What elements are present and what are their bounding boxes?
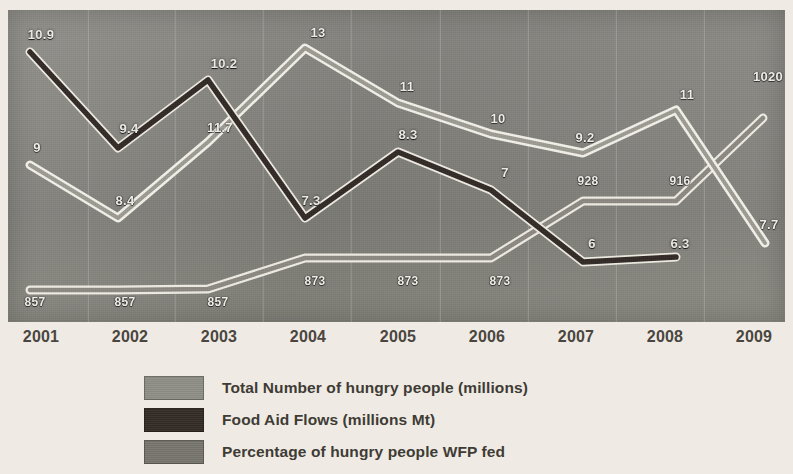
x-axis-tick: 2006 <box>469 328 505 346</box>
legend-label: Total Number of hungry people (millions) <box>222 379 528 397</box>
data-label: 8.4 <box>116 193 135 208</box>
data-label: 873 <box>490 274 511 288</box>
x-axis-tick: 2004 <box>290 328 326 346</box>
data-label: 11.7 <box>207 120 233 135</box>
x-axis-tick: 2009 <box>736 328 772 346</box>
data-label: 857 <box>25 295 46 309</box>
data-label: 9 <box>33 140 41 155</box>
legend-swatch <box>144 440 204 464</box>
data-label: 7.7 <box>760 217 779 232</box>
series-lines <box>8 10 785 322</box>
data-label: 10 <box>490 111 505 126</box>
data-label: 857 <box>115 295 136 309</box>
data-label: 10.2 <box>211 56 238 71</box>
data-label: 11 <box>680 87 694 102</box>
data-label: 6.3 <box>671 236 690 251</box>
data-label: 10.9 <box>28 27 55 42</box>
legend-label: Food Aid Flows (millions Mt) <box>222 411 435 429</box>
legend-item-food-aid: Food Aid Flows (millions Mt) <box>144 404 684 436</box>
chart-root: 10.9 9.4 10.2 7.3 8.3 7 6 6.3 9 8.4 11.7… <box>0 0 793 474</box>
legend-item-total-hungry: Total Number of hungry people (millions) <box>144 372 684 404</box>
x-axis-tick: 2008 <box>647 328 683 346</box>
legend-label: Percentage of hungry people WFP fed <box>222 443 505 461</box>
series-total-hungry <box>30 48 765 243</box>
x-axis-tick: 2005 <box>380 328 416 346</box>
data-label: 928 <box>578 174 599 188</box>
plot-area: 10.9 9.4 10.2 7.3 8.3 7 6 6.3 9 8.4 11.7… <box>8 10 785 322</box>
legend-item-wfp-percentage: Percentage of hungry people WFP fed <box>144 436 684 468</box>
data-label: 916 <box>670 174 691 188</box>
data-label: 873 <box>305 274 326 288</box>
data-label: 9.2 <box>576 130 595 145</box>
legend-swatch <box>144 376 204 400</box>
legend: Total Number of hungry people (millions)… <box>144 372 684 468</box>
x-axis-tick: 2007 <box>558 328 594 346</box>
data-label: 11 <box>400 79 414 94</box>
data-label: 13 <box>310 25 325 40</box>
x-axis-tick: 2001 <box>23 328 59 346</box>
x-axis-tick: 2003 <box>201 328 237 346</box>
data-label: 9.4 <box>120 121 139 136</box>
data-label: 1020 <box>753 69 783 84</box>
data-label: 7 <box>501 165 509 180</box>
series-food-aid <box>30 52 676 262</box>
data-label: 8.3 <box>399 127 418 142</box>
data-label: 873 <box>398 274 419 288</box>
data-label: 857 <box>208 295 229 309</box>
x-axis: 2001 2002 2003 2004 2005 2006 2007 2008 … <box>8 328 785 362</box>
x-axis-tick: 2002 <box>112 328 148 346</box>
legend-swatch <box>144 408 204 432</box>
data-label: 6 <box>588 236 596 251</box>
data-label: 7.3 <box>302 193 321 208</box>
